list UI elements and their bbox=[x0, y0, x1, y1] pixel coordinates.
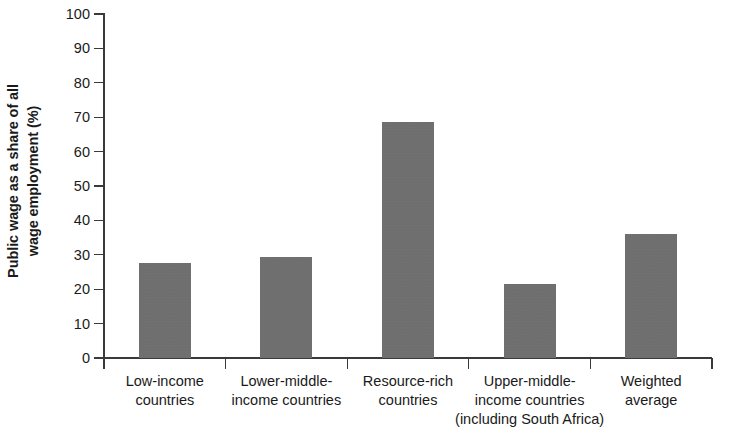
plot-area bbox=[104, 14, 712, 358]
y-axis-tick bbox=[94, 289, 104, 290]
y-axis-tick-label: 80 bbox=[52, 76, 90, 90]
x-axis-separator-tick bbox=[468, 358, 469, 369]
bar bbox=[504, 284, 556, 358]
bar bbox=[382, 122, 434, 358]
y-axis-tick bbox=[94, 117, 104, 118]
y-axis-tick-label: 100 bbox=[52, 7, 90, 21]
y-axis-tick bbox=[94, 48, 104, 49]
y-axis-tick-label: 30 bbox=[52, 248, 90, 262]
x-axis-separator-tick bbox=[590, 358, 591, 369]
y-axis-tick-label: 50 bbox=[52, 179, 90, 193]
x-axis-category-label-line: Weighted bbox=[576, 372, 726, 391]
bar bbox=[260, 257, 312, 358]
bar-chart: Public wage as a share of all wage emplo… bbox=[0, 0, 740, 444]
x-axis-category-label: Weightedaverage bbox=[576, 372, 726, 410]
y-axis-tick bbox=[94, 220, 104, 221]
y-axis-title-line-2: wage employment (%) bbox=[23, 84, 43, 278]
y-axis-tick bbox=[94, 185, 104, 186]
y-axis-tick bbox=[94, 13, 104, 14]
y-axis-tick-label: 40 bbox=[52, 213, 90, 227]
x-axis-category-label-line: average bbox=[576, 391, 726, 410]
y-axis-tick-label: 0 bbox=[52, 351, 90, 365]
x-axis-category-label-line: (including South Africa) bbox=[400, 410, 660, 429]
bar bbox=[625, 234, 677, 358]
y-axis-tick-label: 60 bbox=[52, 145, 90, 159]
y-axis-title-text: Public wage as a share of all wage emplo… bbox=[3, 84, 43, 278]
y-axis-tick-label: 70 bbox=[52, 110, 90, 124]
y-axis-tick-label: 20 bbox=[52, 282, 90, 296]
y-axis-tick bbox=[94, 323, 104, 324]
x-axis-separator-tick bbox=[225, 358, 226, 369]
y-axis-title-line-1: Public wage as a share of all bbox=[3, 84, 23, 278]
y-axis-tick bbox=[94, 151, 104, 152]
y-axis-title: Public wage as a share of all wage emplo… bbox=[0, 0, 46, 362]
x-axis-separator-tick bbox=[103, 358, 104, 369]
x-axis-separator-tick bbox=[347, 358, 348, 369]
y-axis-tick bbox=[94, 82, 104, 83]
y-axis-tick bbox=[94, 254, 104, 255]
bar bbox=[139, 263, 191, 358]
y-axis-tick-label: 90 bbox=[52, 41, 90, 55]
y-axis-tick-label: 10 bbox=[52, 317, 90, 331]
x-axis-separator-tick bbox=[711, 358, 712, 369]
